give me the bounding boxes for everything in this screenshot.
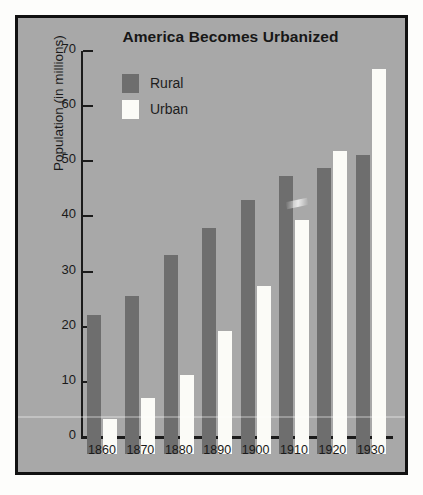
bar-urban-1900 [257, 286, 271, 454]
x-axis-label-1860: 1860 [84, 443, 120, 457]
plot-area: Population (in millions) 010203040506070… [81, 51, 407, 455]
y-tick-label: 30 [62, 262, 76, 277]
bar-rural-1900 [241, 200, 255, 454]
figure-canvas: America Becomes Urbanized Rural Urban Po… [0, 0, 423, 495]
bar-rural-1910 [279, 176, 293, 454]
y-tick-label: 0 [69, 427, 76, 442]
chart-title: America Becomes Urbanized [18, 28, 408, 46]
bar-rural-1860 [87, 315, 101, 455]
y-tick-label: 40 [62, 206, 76, 221]
chart-panel: America Becomes Urbanized Rural Urban Po… [15, 15, 408, 475]
y-tick-60: 60 [83, 105, 93, 107]
bar-urban-1890 [218, 331, 232, 454]
x-axis-label-1910: 1910 [276, 443, 312, 457]
y-tick-50: 50 [83, 160, 93, 162]
y-tick-label: 60 [62, 96, 76, 111]
y-tick-label: 10 [62, 372, 76, 387]
y-tick-40: 40 [83, 215, 93, 217]
x-axis-label-1920: 1920 [314, 443, 350, 457]
bar-rural-1920 [317, 168, 331, 454]
x-axis-label-1930: 1930 [353, 443, 389, 457]
bar-urban-1920 [333, 151, 347, 454]
bar-rural-1880 [164, 255, 178, 454]
y-axis-line [81, 51, 83, 437]
x-axis-label-1900: 1900 [238, 443, 274, 457]
bar-rural-1890 [202, 228, 216, 454]
y-tick-70: 70 [83, 50, 93, 52]
y-tick-label: 50 [62, 151, 76, 166]
bar-rural-1930 [356, 155, 370, 454]
bar-rural-1870 [125, 296, 139, 454]
y-tick-label: 70 [62, 41, 76, 56]
x-axis-label-1890: 1890 [199, 443, 235, 457]
y-tick-label: 20 [62, 317, 76, 332]
bar-urban-1930 [372, 69, 386, 454]
x-axis-label-1870: 1870 [122, 443, 158, 457]
y-tick-30: 30 [83, 271, 93, 273]
x-axis-label-1880: 1880 [161, 443, 197, 457]
bar-urban-1910 [295, 220, 309, 454]
